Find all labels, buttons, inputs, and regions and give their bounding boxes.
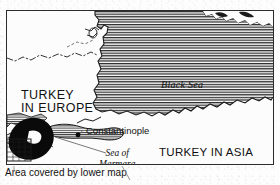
bosphorus-strait [77,117,101,123]
black-sea-fill [93,11,273,116]
map-frame: TURKEY IN EUROPE TURKEY IN ASIA Black Se… [6,10,274,165]
label-turkey-in-europe: TURKEY IN EUROPE [21,89,93,115]
figure-root: TURKEY IN EUROPE TURKEY IN ASIA Black Se… [0,0,280,185]
constantinople-dot [76,133,81,138]
label-sea-of-marmara-line1: Sea of [99,148,135,159]
black-sea-water [93,11,273,116]
label-black-sea: Black Sea [161,79,203,90]
label-turkey-in-europe-line2: IN EUROPE [21,102,93,115]
label-sea-of-marmara-line2: Marmara [99,159,135,165]
label-sea-of-marmara: Sea of Marmara [99,148,135,165]
label-turkey-in-asia: TURKEY IN ASIA [159,146,253,158]
map-caption: Area covered by lower map [5,167,127,178]
danube-delta-detail [67,27,99,47]
label-constantinople: Constantinople [86,125,149,136]
country-boundary-line [7,52,97,61]
